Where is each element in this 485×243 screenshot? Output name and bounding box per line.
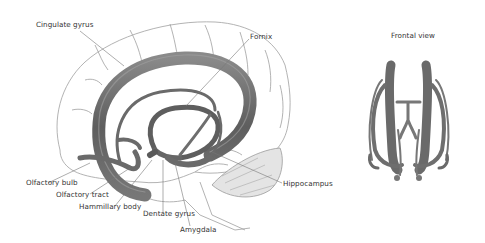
label-amygdala: Amygdala — [180, 225, 217, 234]
label-olfactory-bulb: Olfactory bulb — [26, 178, 78, 187]
label-olfactory-tract: Olfactory tract — [56, 190, 109, 199]
label-fornix: Fornix — [250, 32, 272, 41]
label-frontal-view: Frontal view — [391, 31, 435, 40]
limbic-system-diagram: Cingulate gyrus Fornix Olfactory bulb Ol… — [0, 0, 485, 243]
label-mammillary-body: Hammillary body — [79, 202, 141, 211]
label-dentate-gyrus: Dentate gyrus — [143, 209, 195, 218]
label-hippocampus: Hippocampus — [283, 179, 333, 188]
label-cingulate-gyrus: Cingulate gyrus — [36, 20, 93, 29]
frontal-view-artwork — [369, 65, 448, 181]
